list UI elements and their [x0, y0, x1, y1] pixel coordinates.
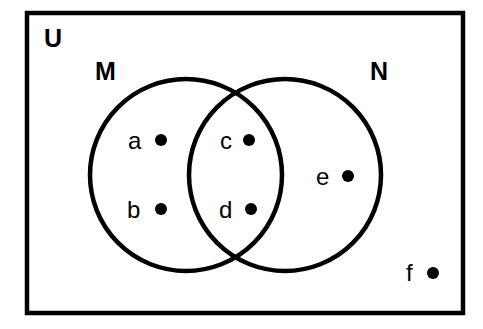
element-label-b: b [127, 196, 140, 223]
element-label-f: f [406, 259, 413, 286]
element-label-d: d [219, 196, 232, 223]
element-dot-d [245, 203, 257, 215]
element-dot-b [155, 203, 167, 215]
set-label-n: N [370, 57, 389, 85]
element-dot-e [342, 170, 354, 182]
element-label-e: e [316, 163, 329, 190]
element-dot-a [155, 134, 167, 146]
element-dot-f [427, 267, 439, 279]
element-label-c: c [220, 127, 232, 154]
venn-diagram-svg: U M N a b c d e [0, 0, 483, 329]
element-label-a: a [128, 127, 142, 154]
universal-set-label: U [44, 24, 63, 52]
element-dot-c [243, 134, 255, 146]
venn-diagram-canvas: U M N a b c d e [0, 0, 483, 329]
set-label-m: M [95, 57, 116, 85]
